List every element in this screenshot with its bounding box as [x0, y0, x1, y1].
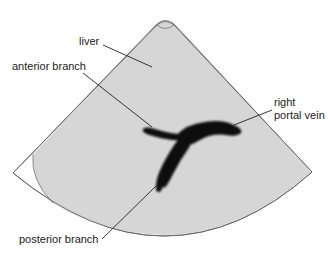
label-anterior-branch: anterior branch — [12, 60, 86, 73]
ultrasound-sector-figure — [0, 0, 329, 254]
ultrasound-diagram: liver anterior branch right portal vein … — [0, 0, 329, 254]
label-right-portal-vein-line2: portal vein — [274, 109, 325, 122]
label-liver: liver — [79, 35, 99, 48]
label-posterior-branch: posterior branch — [19, 233, 99, 246]
label-right-portal-vein-line1: right — [274, 96, 295, 109]
liver-sector-fill — [33, 22, 311, 236]
